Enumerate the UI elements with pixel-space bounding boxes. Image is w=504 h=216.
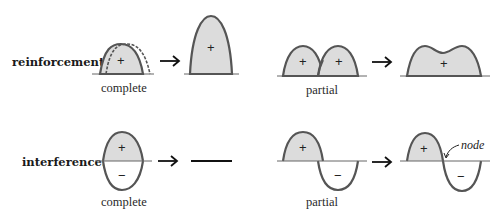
caption-reinforcement-partial: partial	[306, 83, 338, 97]
plus-sign: +	[117, 53, 125, 68]
row-label-interference: interference:	[22, 155, 106, 169]
node-label: node	[461, 138, 485, 152]
right-arrow-icon	[372, 57, 391, 67]
minus-sign: −	[457, 169, 465, 184]
plus-sign: +	[299, 54, 307, 69]
reinforcement-partial-after: +	[400, 46, 490, 76]
interference-complete-before: + −	[95, 132, 152, 190]
row-label-reinforcement: reinforcement:	[12, 55, 109, 69]
reinforcement-partial-before: + +	[277, 46, 367, 76]
minus-sign: −	[334, 168, 342, 183]
node-pointer-icon	[444, 145, 459, 158]
interference-partial-before: + −	[277, 132, 367, 190]
plus-sign: +	[420, 141, 428, 156]
row-interference: interference: + − complete + − partial	[22, 132, 490, 209]
plus-sign: +	[118, 140, 126, 155]
plus-sign: +	[207, 40, 215, 55]
plus-sign: +	[299, 140, 307, 155]
row-reinforcement: reinforcement: + complete + + +	[12, 16, 490, 97]
reinforcement-complete-after: +	[184, 16, 239, 74]
right-arrow-icon	[372, 157, 391, 167]
wave-interference-diagram: reinforcement: + complete + + +	[0, 0, 504, 216]
plus-sign: +	[335, 54, 343, 69]
caption-interference-partial: partial	[306, 195, 338, 209]
caption-interference-complete: complete	[101, 195, 147, 209]
right-arrow-icon	[160, 56, 179, 66]
interference-partial-after: + − node	[400, 133, 490, 191]
minus-sign: −	[118, 168, 126, 183]
plus-sign: +	[440, 56, 448, 71]
right-arrow-icon	[158, 156, 177, 166]
caption-reinforcement-complete: complete	[101, 81, 147, 95]
